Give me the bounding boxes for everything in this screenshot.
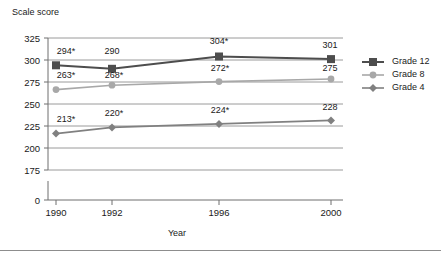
data-point-grade-12-2000 bbox=[327, 55, 335, 63]
series-grade-12 bbox=[52, 53, 335, 73]
data-label-grade-8-1990: 263* bbox=[57, 70, 76, 80]
data-label-grade-8-1996: 272* bbox=[211, 63, 230, 73]
series-line-grade-8 bbox=[56, 79, 331, 90]
y-tick-label-0: 0 bbox=[35, 195, 40, 206]
y-tick-label-175: 175 bbox=[24, 165, 40, 176]
x-axis-title: Year bbox=[0, 228, 354, 238]
series-line-grade-4 bbox=[56, 120, 331, 133]
x-tick-label-1990: 1990 bbox=[45, 207, 66, 218]
data-label-grade-8-1992: 268* bbox=[105, 70, 124, 80]
legend-marker-diamond-icon bbox=[369, 84, 377, 92]
x-tick-label-2000: 2000 bbox=[320, 207, 341, 218]
y-tick-label-275: 275 bbox=[24, 77, 40, 88]
series-grade-8 bbox=[53, 76, 335, 93]
footer-divider bbox=[0, 250, 441, 251]
data-point-grade-4-1990 bbox=[52, 130, 60, 138]
data-point-grade-8-2000 bbox=[328, 76, 335, 83]
legend-item-grade-12[interactable]: Grade 12 bbox=[362, 56, 430, 66]
scale-score-line-chart: Scale score bbox=[0, 0, 441, 259]
y-tick-marks bbox=[44, 38, 48, 200]
x-tick-label-1996: 1996 bbox=[208, 207, 229, 218]
data-label-grade-4-1990: 213* bbox=[57, 114, 76, 124]
data-label-grade-12-1996: 304* bbox=[210, 36, 229, 46]
data-point-grade-8-1990 bbox=[53, 86, 60, 93]
y-tick-label-200: 200 bbox=[24, 143, 40, 154]
series-grade-4 bbox=[52, 116, 335, 137]
y-tick-label-300: 300 bbox=[24, 55, 40, 66]
plot-area: 325 300 275 250 225 200 175 0 1990 1992 … bbox=[0, 0, 441, 259]
data-label-grade-12-1990: 294* bbox=[57, 46, 76, 56]
data-label-grade-4-2000: 228 bbox=[322, 102, 337, 112]
data-label-grade-4-1992: 220* bbox=[105, 108, 124, 118]
data-label-grade-8-2000: 275 bbox=[322, 63, 337, 73]
data-label-grade-12-1992: 290 bbox=[104, 46, 119, 56]
data-point-grade-4-1996 bbox=[215, 120, 223, 128]
legend-item-grade-8[interactable]: Grade 8 bbox=[362, 69, 425, 79]
y-tick-label-225: 225 bbox=[24, 121, 40, 132]
legend-label-grade-4: Grade 4 bbox=[392, 82, 425, 92]
x-tick-marks bbox=[56, 200, 331, 205]
legend-marker-circle-icon bbox=[370, 72, 377, 79]
data-label-grade-12-2000: 301 bbox=[322, 40, 337, 50]
series-line-grade-12 bbox=[56, 57, 331, 69]
legend-label-grade-8: Grade 8 bbox=[392, 69, 425, 79]
chart-legend: Grade 12 Grade 8 Grade 4 bbox=[362, 56, 430, 92]
data-point-grade-4-1992 bbox=[108, 123, 116, 131]
data-point-grade-12-1996 bbox=[215, 53, 223, 61]
x-tick-label-1992: 1992 bbox=[101, 207, 122, 218]
data-point-grade-8-1996 bbox=[216, 78, 223, 85]
data-point-grade-12-1990 bbox=[52, 61, 60, 69]
data-label-grade-4-1996: 224* bbox=[211, 105, 230, 115]
data-point-grade-8-1992 bbox=[109, 82, 116, 89]
y-tick-label-250: 250 bbox=[24, 99, 40, 110]
data-point-grade-4-2000 bbox=[327, 116, 335, 124]
legend-marker-square-icon bbox=[369, 58, 377, 66]
y-tick-label-325: 325 bbox=[24, 33, 40, 44]
legend-label-grade-12: Grade 12 bbox=[392, 56, 430, 66]
legend-item-grade-4[interactable]: Grade 4 bbox=[362, 82, 425, 92]
